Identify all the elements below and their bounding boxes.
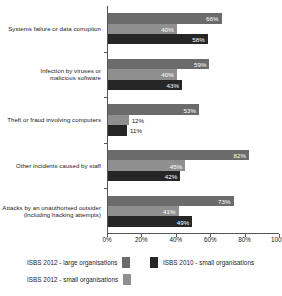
bar-value-label: 41%: [163, 208, 176, 215]
bar: 42%: [108, 171, 180, 181]
bar-value-label: 40%: [161, 71, 174, 78]
category-axis-line: [107, 233, 279, 234]
legend-label: ISBS 2012 - large organisations: [27, 258, 117, 267]
bar: 59%: [108, 59, 209, 69]
bar: 82%: [108, 150, 249, 160]
bar-value-label: 42%: [165, 172, 178, 179]
legend-swatch-icon: [150, 257, 158, 268]
category-label: Theft or fraud involving computers: [0, 116, 101, 123]
bar-value-label: 58%: [192, 36, 205, 43]
bar: 40%: [108, 69, 177, 79]
bar-value-label: 73%: [218, 197, 231, 204]
value-tick-label: 0%: [102, 236, 111, 244]
category-label: Other incidents caused by staff: [0, 162, 101, 169]
bar-value-label: 82%: [233, 152, 246, 159]
legend-swatch-icon: [122, 257, 130, 268]
bar-value-label: 66%: [206, 15, 219, 22]
bar-value-label: 12%: [132, 116, 145, 123]
bar: 66%: [108, 13, 222, 23]
category-tick: [104, 52, 107, 53]
value-tick-label: 100%: [271, 236, 282, 244]
legend-label: ISBS 2010 - small organisations: [163, 258, 254, 267]
bar-value-label: 49%: [177, 218, 190, 225]
category-label: Infection by viruses ormalicious softwar…: [0, 67, 101, 82]
value-axis-tick-labels: 0%20%40%60%80%100%: [107, 236, 282, 248]
legend-item-isbs-2012-small: ISBS 2012 - small organisations: [27, 273, 131, 286]
legend-item-isbs-2010-small: ISBS 2010 - small organisations: [150, 256, 254, 269]
bar-value-label: 40%: [161, 25, 174, 32]
bar: 45%: [108, 160, 185, 170]
bar: 58%: [108, 34, 208, 44]
bar-value-label: 53%: [184, 106, 197, 113]
value-tick-label: 20%: [135, 236, 148, 244]
bar: 73%: [108, 196, 234, 206]
bar-chart: Systems failure or data corruptionInfect…: [0, 0, 282, 296]
bar: 49%: [108, 216, 192, 226]
legend-label: ISBS 2012 - small organisations: [27, 275, 118, 284]
legend-swatch-icon: [123, 274, 131, 285]
bar: 53%: [108, 104, 199, 114]
category-axis-labels: Systems failure or data corruptionInfect…: [0, 6, 104, 234]
bar: 11%: [108, 125, 127, 135]
category-label: Attacks by an unauthorised outsider(incl…: [0, 204, 101, 219]
chart-legend: ISBS 2012 - large organisations ISBS 201…: [27, 256, 277, 292]
bar-value-label: 11%: [130, 127, 142, 134]
plot-area: Systems failure or data corruptionInfect…: [0, 0, 282, 248]
value-tick-label: 40%: [169, 236, 182, 244]
category-tick: [104, 97, 107, 98]
bar-value-label: 43%: [166, 81, 179, 88]
bar: 12%: [108, 115, 129, 125]
bar: 43%: [108, 80, 182, 90]
category-tick: [104, 188, 107, 189]
plot-canvas: 66%59%53%82%73%40%40%12%45%41%58%43%11%4…: [107, 6, 279, 234]
bar: 41%: [108, 206, 179, 216]
legend-item-isbs-2012-large: ISBS 2012 - large organisations: [27, 256, 130, 269]
category-label: Systems failure or data corruption: [0, 25, 101, 32]
bar-value-label: 45%: [170, 162, 183, 169]
bar: 40%: [108, 24, 177, 34]
value-tick-label: 60%: [204, 236, 217, 244]
value-tick-label: 80%: [238, 236, 251, 244]
bar-value-label: 59%: [194, 60, 207, 67]
category-tick: [104, 143, 107, 144]
